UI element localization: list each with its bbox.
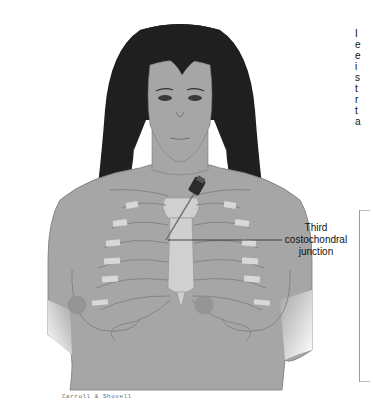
text-fragment: e [355,39,374,50]
left-eye [158,95,172,101]
annotation-line-2: costochondral [268,234,364,246]
text-fragment: t [355,83,374,94]
annotation-label: Third costochondral junction [268,222,364,258]
text-fragment: s [355,72,374,83]
text-fragment: i [355,61,374,72]
text-fragment: a [355,116,374,127]
artist-signature: Carroll & Shovell [62,393,132,400]
text-fragment: r [355,94,374,105]
right-areola [195,296,213,314]
cropped-paragraph: I e e i s t r t a [355,28,374,127]
text-fragment: e [355,50,374,61]
annotation-line-1: Third [268,222,364,234]
text-fragment: t [355,105,374,116]
right-eye [188,95,202,101]
annotation-line-3: junction [268,246,364,258]
left-areola [68,296,86,314]
text-fragment: I [355,28,374,39]
side-panel-border [359,210,370,382]
